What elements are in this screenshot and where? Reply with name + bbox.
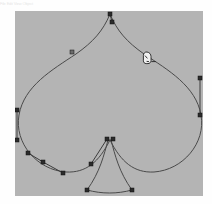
anchor-stem-top-right[interactable] (111, 137, 115, 141)
spade-outline-path[interactable] (18, 14, 201, 172)
anchor-stem-top-left[interactable] (105, 137, 109, 141)
drawing-canvas[interactable] (15, 11, 203, 196)
anchor-top-control[interactable] (110, 20, 114, 24)
anchor-top-vertex[interactable] (108, 12, 112, 16)
lower-left-handle-b[interactable] (43, 162, 63, 173)
toolbar-item-object[interactable]: Object (23, 1, 33, 6)
anchor-lower-left-mid[interactable] (41, 160, 45, 164)
anchor-right-upper[interactable] (198, 76, 202, 80)
toolbar-item-file[interactable]: File (0, 1, 6, 6)
canvas-vector-layer[interactable] (15, 11, 203, 196)
spade-stem-path[interactable] (87, 140, 132, 193)
toolbar-item-view[interactable]: View (14, 1, 22, 6)
anchor-right-lower[interactable] (198, 113, 202, 117)
anchor-stem-bottom-right[interactable] (130, 188, 134, 192)
anchor-lower-left-inner[interactable] (61, 171, 65, 175)
anchor-upper-left-curve[interactable] (70, 50, 74, 54)
anchor-left-lower[interactable] (15, 138, 19, 142)
toolbar-item-edit[interactable]: Edit (7, 1, 13, 6)
anchor-stem-bottom-left[interactable] (85, 188, 89, 192)
toolbar-strip: File Edit View Object (0, 0, 48, 7)
anchor-left-upper[interactable] (15, 108, 19, 112)
anchor-stem-control-left[interactable] (89, 162, 93, 166)
application-window: File Edit View Object spade-shape (0, 0, 212, 204)
anchor-lower-left-outer[interactable] (26, 151, 30, 155)
bezier-handle-lines[interactable] (17, 14, 200, 173)
artwork-group[interactable] (18, 14, 201, 193)
